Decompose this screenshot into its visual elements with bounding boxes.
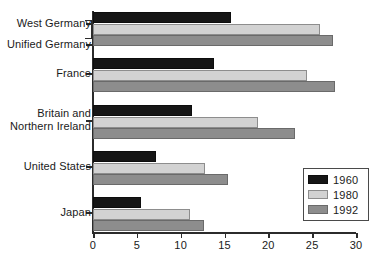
x-tick-30 bbox=[356, 233, 358, 238]
legend-swatch-1960-icon bbox=[308, 175, 328, 184]
x-tick-label-20: 20 bbox=[248, 239, 288, 251]
legend-swatch-1992-icon bbox=[308, 205, 328, 214]
category-label-unified-germany: Unified Germany bbox=[0, 38, 91, 51]
legend-swatch-1980-icon bbox=[308, 190, 328, 199]
bar-chart: 051015202530 West Germany Unified German… bbox=[0, 0, 371, 256]
x-tick-20 bbox=[268, 233, 270, 238]
bar-britain-and-northern-ireland-1980 bbox=[93, 117, 258, 128]
bar-west-germany-unified-germany-1992 bbox=[93, 35, 333, 46]
category-label-west-germany: West Germany bbox=[0, 17, 91, 30]
x-tick-label-5: 5 bbox=[117, 239, 157, 251]
x-tick-25 bbox=[312, 233, 314, 238]
x-tick-label-30: 30 bbox=[336, 239, 371, 251]
bar-west-germany-unified-germany-1960 bbox=[93, 12, 231, 23]
x-tick-10 bbox=[181, 233, 183, 238]
bar-japan-1980 bbox=[93, 209, 190, 220]
x-tick-label-15: 15 bbox=[205, 239, 245, 251]
x-tick-0 bbox=[93, 233, 95, 238]
x-tick-5 bbox=[137, 233, 139, 238]
legend-item-1960: 1960 bbox=[308, 173, 364, 186]
bar-united-states-1980 bbox=[93, 163, 205, 174]
category-label-britain-line2: Northern Ireland bbox=[0, 120, 91, 133]
legend-label-1980: 1980 bbox=[333, 189, 358, 201]
bar-west-germany-unified-germany-1980 bbox=[93, 24, 320, 35]
legend-item-1992: 1992 bbox=[308, 203, 364, 216]
x-tick-label-25: 25 bbox=[292, 239, 332, 251]
bar-britain-and-northern-ireland-1992 bbox=[93, 128, 295, 139]
legend-label-1992: 1992 bbox=[333, 204, 358, 216]
bar-france-1980 bbox=[93, 70, 307, 81]
bar-france-1992 bbox=[93, 81, 335, 92]
bar-united-states-1992 bbox=[93, 174, 228, 185]
bar-japan-1992 bbox=[93, 220, 204, 231]
bar-france-1960 bbox=[93, 58, 214, 69]
category-label-france: France bbox=[0, 67, 91, 80]
legend: 1960 1980 1992 bbox=[303, 168, 369, 221]
x-tick-label-0: 0 bbox=[73, 239, 113, 251]
category-label-britain-line1: Britain and bbox=[0, 107, 91, 120]
bar-united-states-1960 bbox=[93, 151, 156, 162]
category-label-united-states: United States bbox=[0, 160, 91, 173]
x-tick-15 bbox=[225, 233, 227, 238]
legend-label-1960: 1960 bbox=[333, 174, 358, 186]
bar-britain-and-northern-ireland-1960 bbox=[93, 105, 192, 116]
category-label-japan: Japan bbox=[0, 206, 91, 219]
legend-item-1980: 1980 bbox=[308, 188, 364, 201]
x-tick-label-10: 10 bbox=[161, 239, 201, 251]
bar-japan-1960 bbox=[93, 197, 141, 208]
